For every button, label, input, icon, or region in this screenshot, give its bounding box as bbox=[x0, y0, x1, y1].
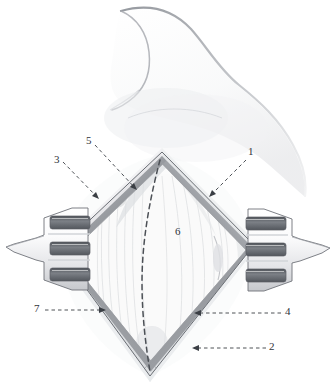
retractor-right[interactable] bbox=[246, 209, 330, 291]
label-2: 2 bbox=[269, 341, 275, 352]
illustration-canvas bbox=[0, 0, 336, 389]
retractor-left-prong-3 bbox=[50, 268, 90, 281]
breast-shade-2 bbox=[124, 94, 268, 162]
label-5: 5 bbox=[86, 135, 92, 146]
retractor-left-prong-1 bbox=[50, 216, 90, 229]
label-6: 6 bbox=[175, 226, 181, 237]
retractor-right-prong-3 bbox=[246, 269, 286, 282]
label-4: 4 bbox=[285, 306, 291, 317]
label-7: 7 bbox=[34, 303, 40, 314]
label-1: 1 bbox=[248, 146, 254, 157]
retractor-left-prong-2 bbox=[50, 242, 90, 255]
figure-root: 1 2 3 4 5 6 7 bbox=[0, 0, 336, 389]
label-3: 3 bbox=[54, 154, 60, 165]
retractor-right-prong-2 bbox=[246, 243, 286, 256]
retractor-left[interactable] bbox=[6, 208, 90, 290]
retractor-right-prong-1 bbox=[246, 217, 286, 230]
tissue-nodule bbox=[213, 244, 223, 272]
